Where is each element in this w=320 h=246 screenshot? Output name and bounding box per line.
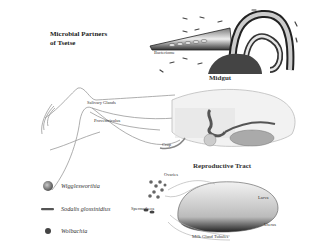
label-ovaries: Ovaries bbox=[164, 172, 178, 177]
label-salivary-glands: Salivary Glands bbox=[87, 100, 116, 105]
label-spermatheca: Spermatheca bbox=[131, 206, 154, 211]
legend-symbols bbox=[41, 181, 54, 234]
legend-wigglesworthia: Wigglesworthia bbox=[61, 182, 100, 189]
midgut-illustration bbox=[150, 10, 297, 74]
label-larva: Larva bbox=[258, 195, 269, 200]
diagram-title: Microbial Partners of Tsetse bbox=[50, 30, 107, 48]
title-line-2: of Tsetse bbox=[50, 39, 107, 48]
legend-sodalis: Sodalis glossinidius bbox=[61, 205, 110, 212]
label-milk-gland-tubules: Milk Gland Tubules bbox=[192, 234, 228, 239]
title-line-1: Microbial Partners bbox=[50, 30, 107, 39]
heading-reproductive-tract: Reproductive Tract bbox=[193, 162, 251, 170]
label-bacteriome: Bacteriome bbox=[154, 50, 175, 55]
reproductive-illustration bbox=[144, 180, 279, 240]
heading-midgut: Midgut bbox=[209, 74, 231, 82]
label-uterus: Uterus bbox=[264, 222, 276, 227]
abdomen-illustration bbox=[160, 89, 295, 148]
label-crop: Crop bbox=[162, 142, 171, 147]
label-proventriculus: Proventriculus bbox=[94, 118, 120, 123]
legend-wolbachia: Wolbachia bbox=[61, 227, 87, 234]
